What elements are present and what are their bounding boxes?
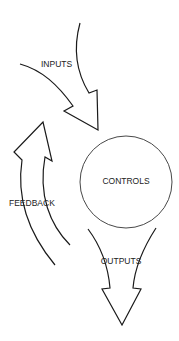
inputs-arrow [20, 23, 98, 130]
inputs-label: INPUTS [41, 59, 73, 69]
outputs-label: OUTPUTS [101, 256, 142, 266]
feedback-label: FEEDBACK [9, 198, 55, 208]
outputs-arrow [88, 228, 156, 325]
control-loop-diagram: INPUTS CONTROLS FEEDBACK OUTPUTS [0, 0, 179, 341]
feedback-arrow [14, 122, 70, 265]
controls-label: CONTROLS [102, 176, 150, 186]
